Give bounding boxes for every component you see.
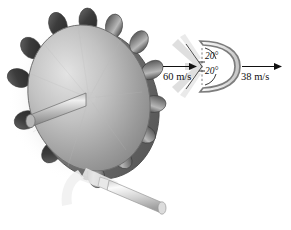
outlet-speed-label: 38 m/s <box>241 72 269 83</box>
lower-angle-label: 20° <box>205 67 218 77</box>
inlet-speed-label: 60 m/s <box>163 72 191 83</box>
deflection-diagram <box>0 0 291 230</box>
pelton-wheel-figure: 60 m/s 38 m/s 20° 20° <box>0 0 291 230</box>
upper-angle-label: 20° <box>205 52 218 62</box>
